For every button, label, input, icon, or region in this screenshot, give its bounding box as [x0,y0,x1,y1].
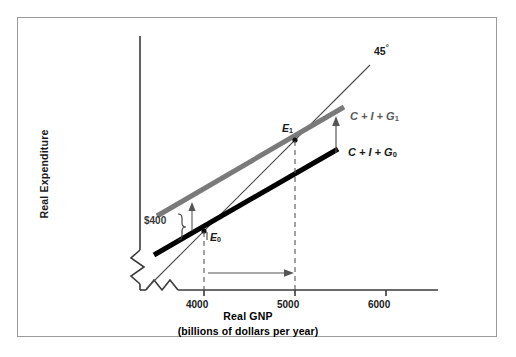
equilibrium-label-e0-text: E [210,231,217,243]
vertical-shift-arrow-head [332,116,340,126]
x-tick-label-5000: 5000 [277,300,299,310]
shift-small-arrow-head [188,202,195,211]
forty-five-degree-value: 45 [374,45,386,57]
x-tick-label-4000: 4000 [186,300,208,310]
y-axis-break-zigzag [131,250,144,284]
series-label-c-i-g0-text: C + I + G [348,146,393,158]
series-label-c-i-g1: C + I + G1 [350,111,399,122]
series-label-c-i-g1-text: C + I + G [350,110,395,122]
series-label-c-i-g1-sub: 1 [395,114,399,123]
equilibrium-label-e1: E1 [282,123,293,134]
shift-amount-label: $400 [144,216,166,226]
x-axis-title: Real GNP [128,310,368,322]
equilibrium-label-e1-text: E [282,122,289,134]
equilibrium-label-e1-sub: 1 [289,127,293,134]
chart-canvas [18,18,498,338]
figure-frame: Real Expenditure [17,17,497,337]
x-tick-label-6000: 6000 [368,300,390,310]
equilibrium-label-e0-sub: 0 [217,236,221,243]
x-axis-subtitle: (billions of dollars per year) [128,325,368,337]
x-axis-title-group: Real GNP (billions of dollars per year) [128,310,368,337]
series-label-c-i-g0: C + I + G0 [348,147,397,158]
x-axis-break-zigzag [146,280,178,290]
forty-five-degree-line [146,65,370,289]
series-label-c-i-g0-sub: 0 [393,150,397,159]
degree-symbol: ° [386,43,389,52]
forty-five-degree-label: 45° [374,44,389,56]
horizontal-shift-arrow-head [284,269,294,277]
equilibrium-label-e0: E0 [210,232,221,243]
